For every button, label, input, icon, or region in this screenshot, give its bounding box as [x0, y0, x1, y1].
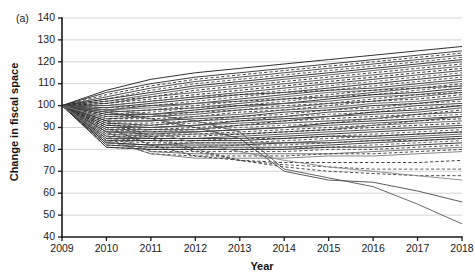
x-tick-label: 2012 [184, 242, 208, 254]
x-tick-label: 2018 [450, 242, 474, 254]
y-tick-label: 70 [43, 164, 55, 176]
x-tick-label: 2011 [140, 242, 163, 254]
x-tick-label: 2016 [361, 242, 385, 254]
y-tick-label: 120 [37, 55, 55, 67]
chart-figure: 405060708090100110120130140 200920102011… [0, 0, 475, 277]
x-axis-title: Year [250, 260, 274, 272]
x-tick-label: 2014 [273, 242, 297, 254]
y-axis-title: Change in fiscal space [8, 63, 20, 182]
y-tick-label: 140 [37, 11, 55, 23]
y-tick-label: 110 [38, 76, 55, 88]
x-tick-label: 2015 [317, 242, 341, 254]
y-tick-label: 100 [37, 98, 55, 110]
x-tick-label: 2009 [50, 242, 74, 254]
x-tick-label: 2010 [95, 242, 119, 254]
panel-label: (a) [16, 12, 29, 24]
y-tick-label: 130 [37, 33, 55, 45]
y-tick-label: 90 [43, 120, 55, 132]
x-tick-label: 2013 [228, 242, 252, 254]
y-tick-label: 80 [43, 142, 55, 154]
y-tick-label: 40 [43, 230, 55, 242]
chart-canvas: 405060708090100110120130140 200920102011… [0, 0, 475, 277]
x-tick-label: 2017 [406, 242, 430, 254]
y-tick-label: 50 [43, 208, 55, 220]
y-tick-label: 60 [43, 186, 55, 198]
